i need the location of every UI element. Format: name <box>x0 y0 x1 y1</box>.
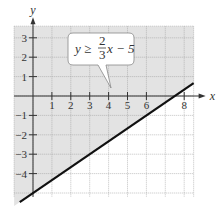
inequality-graph: 1234568321−1−2−3−4xy y ≥ 2 3 x − 5 <box>0 0 220 212</box>
x-axis-arrow-icon <box>199 94 206 99</box>
y-tick-label: 2 <box>22 51 28 63</box>
x-tick-label: 5 <box>125 99 131 111</box>
y-axis-arrow-icon <box>31 17 36 24</box>
callout-rhs: x − 5 <box>106 41 135 56</box>
x-axis-label: x <box>209 89 216 103</box>
callout-lhs: y ≥ <box>73 41 91 56</box>
y-axis-label: y <box>29 3 36 17</box>
callout-fraction-num: 2 <box>99 33 106 48</box>
y-tick-label: −3 <box>15 148 27 160</box>
x-tick-label: 8 <box>181 99 187 111</box>
y-tick-label: −1 <box>15 109 27 121</box>
y-tick-label: 1 <box>22 71 28 83</box>
x-tick-label: 2 <box>68 99 74 111</box>
y-tick-label: −4 <box>15 168 27 180</box>
callout-fraction-den: 3 <box>99 47 106 62</box>
x-tick-label: 6 <box>144 99 150 111</box>
x-tick-label: 4 <box>106 99 112 111</box>
x-tick-label: 3 <box>87 99 93 111</box>
x-tick-label: 1 <box>49 99 55 111</box>
y-tick-label: −2 <box>15 129 27 141</box>
y-tick-label: 3 <box>22 32 28 44</box>
